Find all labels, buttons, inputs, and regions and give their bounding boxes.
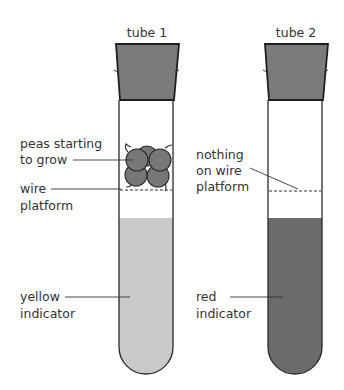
tube-1-stopper xyxy=(116,44,179,100)
nothing-leader-line xyxy=(250,168,298,189)
yellow-indicator-label-line1: yellow xyxy=(20,289,60,304)
yellow-indicator-liquid xyxy=(119,218,173,374)
tube-1: tube 1 peas starting to grow wire platfo… xyxy=(20,25,179,374)
peas-icon xyxy=(125,144,172,191)
test-tube-diagram: tube 1 peas starting to grow wire platfo… xyxy=(0,0,344,390)
tube-2-title: tube 2 xyxy=(276,25,316,40)
red-indicator-label-line1: red xyxy=(196,289,217,304)
wire-platform-label-line1: wire xyxy=(20,181,47,196)
tube-2-stopper xyxy=(265,44,328,100)
nothing-label-line1: nothing xyxy=(196,147,244,162)
red-indicator-liquid xyxy=(268,218,322,374)
peas-label-line1: peas starting xyxy=(20,136,102,151)
nothing-label-line2: on wire xyxy=(196,163,242,178)
wire-platform-label-line2: platform xyxy=(20,198,73,213)
red-indicator-label-line2: indicator xyxy=(196,306,252,321)
tube-2: tube 2 nothing on wire platform red indi… xyxy=(196,25,328,374)
nothing-label-line3: platform xyxy=(196,179,249,194)
peas-label-line2: to grow xyxy=(20,152,67,167)
tube-1-title: tube 1 xyxy=(127,25,167,40)
yellow-indicator-label-line2: indicator xyxy=(20,306,76,321)
